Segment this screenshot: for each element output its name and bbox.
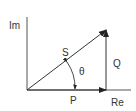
s-vector-arrow	[27, 30, 106, 90]
theta-arc-icon	[67, 62, 75, 89]
p-vector-label: P	[70, 96, 77, 106]
imaginary-axis-label: Im	[9, 21, 20, 31]
q-vector-label: Q	[113, 59, 121, 69]
real-axis-label: Re	[111, 98, 124, 108]
s-vector-label: S	[62, 48, 69, 58]
theta-label: θ	[79, 67, 85, 77]
